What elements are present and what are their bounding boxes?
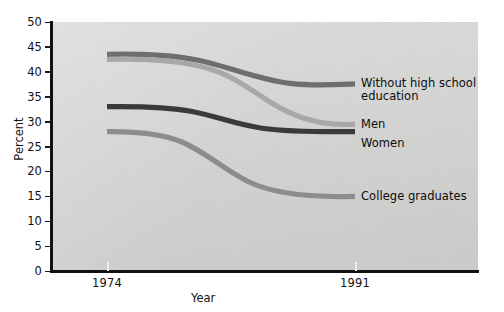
y-axis-tick-label: 5 — [18, 239, 42, 253]
y-axis-tick — [45, 221, 51, 223]
x-axis-title: Year — [191, 291, 215, 305]
series-label-women: Women — [361, 137, 405, 150]
x-axis-tick-label: 1991 — [330, 276, 380, 290]
plot-area — [52, 22, 478, 271]
x-axis-line — [50, 270, 479, 273]
y-axis-tick-label: 35 — [18, 90, 42, 104]
y-axis-tick — [45, 22, 51, 24]
x-axis-tick-label: 1974 — [82, 276, 132, 290]
x-axis-tick — [107, 262, 109, 271]
y-axis-tick — [45, 171, 51, 173]
chart-screenshot: 50 45 40 35 30 25 20 15 10 5 0 1974 1991… — [0, 0, 504, 312]
y-axis-tick — [45, 146, 51, 148]
y-axis-tick-label: 10 — [18, 214, 42, 228]
plot-texture — [52, 22, 478, 271]
y-axis-tick-label: 45 — [18, 40, 42, 54]
y-axis-tick-label: 50 — [18, 15, 42, 29]
y-axis-tick-label: 15 — [18, 189, 42, 203]
y-axis-tick — [45, 196, 51, 198]
y-axis-tick — [45, 121, 51, 123]
y-axis-tick — [45, 246, 51, 248]
y-axis-tick — [45, 46, 51, 48]
y-axis-tick-label: 40 — [18, 65, 42, 79]
y-axis-tick — [45, 271, 51, 273]
y-axis-tick — [45, 71, 51, 73]
series-label-college-graduates: College graduates — [361, 190, 467, 203]
x-axis-tick — [355, 262, 357, 271]
y-axis-title: Percent — [12, 109, 26, 169]
y-axis-tick — [45, 96, 51, 98]
y-axis-tick-label: 0 — [18, 264, 42, 278]
series-label-men: Men — [361, 118, 385, 131]
series-label-without-high-school: Without high school education — [361, 77, 476, 103]
